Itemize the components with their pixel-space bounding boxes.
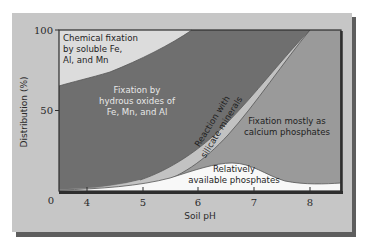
x-tick-label-5: 5 <box>140 197 146 208</box>
y-tick-label-50: 50 <box>40 105 53 116</box>
svg-text:calcium phosphates: calcium phosphates <box>244 127 331 137</box>
svg-text:hydrous oxides of: hydrous oxides of <box>99 96 176 106</box>
calcium-phosphates-label: Fixation mostly as calcium phosphates <box>244 116 331 137</box>
svg-text:Fixation by: Fixation by <box>114 85 161 95</box>
svg-text:Chemical fixation: Chemical fixation <box>63 33 138 43</box>
x-tick-label-6: 6 <box>195 197 201 208</box>
y-tick-label-100: 100 <box>34 25 53 36</box>
svg-text:Fe, Mn, and Al: Fe, Mn, and Al <box>107 107 168 117</box>
x-tick-label-8: 8 <box>307 197 313 208</box>
x-tick-label-7: 7 <box>251 197 257 208</box>
svg-text:by soluble Fe,: by soluble Fe, <box>63 44 122 54</box>
svg-text:Al, and Mn: Al, and Mn <box>63 55 109 65</box>
y-axis-title: Distribution (%) <box>19 77 29 148</box>
y-tick-label-0: 0 <box>48 195 54 206</box>
x-axis-title: Soil pH <box>184 211 216 221</box>
phosphorus-fixation-chart: 100 50 0 4 5 6 7 8 Soil pH Distribution … <box>0 0 365 251</box>
svg-text:Fixation mostly as: Fixation mostly as <box>248 116 326 126</box>
x-tick-label-4: 4 <box>84 197 90 208</box>
svg-text:Relatively: Relatively <box>213 164 255 174</box>
svg-text:available phosphates: available phosphates <box>188 175 280 185</box>
